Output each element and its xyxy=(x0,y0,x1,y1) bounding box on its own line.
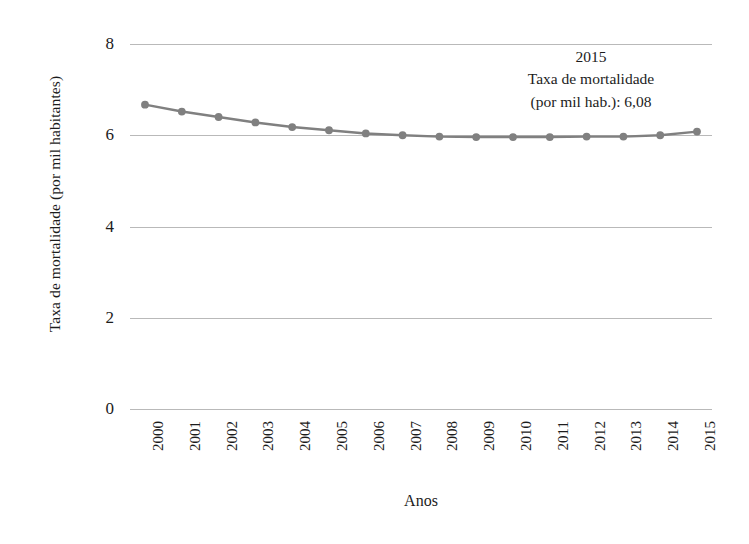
x-tick-label-2009: 2009 xyxy=(482,421,497,451)
x-tick-label-2002: 2002 xyxy=(225,421,240,451)
data-point-2004 xyxy=(288,123,296,131)
x-tick-label-2000: 2000 xyxy=(151,421,166,451)
mortality-rate-line-chart: Taxa de mortalidade (por mil habitantes)… xyxy=(0,0,749,544)
y-tick-label-8: 8 xyxy=(86,35,114,52)
data-point-2008 xyxy=(436,133,444,141)
data-point-2007 xyxy=(399,131,407,139)
data-point-2014 xyxy=(656,131,664,139)
x-tick-label-2006: 2006 xyxy=(372,421,387,451)
x-tick-label-2005: 2005 xyxy=(335,421,350,451)
x-tick-label-2008: 2008 xyxy=(445,421,460,451)
x-tick-label-2003: 2003 xyxy=(261,421,276,451)
x-tick-label-2013: 2013 xyxy=(629,421,644,451)
annotation-line-2: Taxa de mortalidade xyxy=(470,68,712,90)
data-point-2005 xyxy=(325,126,333,134)
last-point-annotation: 2015Taxa de mortalidade(por mil hab.): 6… xyxy=(470,46,712,113)
annotation-line-3: (por mil hab.): 6,08 xyxy=(470,91,712,113)
y-tick-label-0: 0 xyxy=(86,400,114,417)
x-tick-label-2010: 2010 xyxy=(519,421,534,451)
x-tick-label-2012: 2012 xyxy=(593,421,608,451)
y-axis-title: Taxa de mortalidade (por mil habitantes) xyxy=(46,0,64,414)
x-tick-label-2015: 2015 xyxy=(703,421,718,451)
data-point-2000 xyxy=(141,101,149,109)
data-point-2003 xyxy=(252,119,260,127)
data-point-2010 xyxy=(509,133,517,141)
y-axis-tick-labels: 02468 xyxy=(86,0,114,544)
data-point-2002 xyxy=(215,113,223,121)
data-point-2015 xyxy=(693,128,701,136)
x-tick-label-2007: 2007 xyxy=(409,421,424,451)
annotation-line-1: 2015 xyxy=(470,46,712,68)
data-point-2001 xyxy=(178,108,186,116)
y-tick-label-6: 6 xyxy=(86,126,114,143)
x-tick-label-2004: 2004 xyxy=(298,421,313,451)
x-axis-title: Anos xyxy=(130,492,712,510)
x-tick-label-2001: 2001 xyxy=(188,421,203,451)
data-point-2006 xyxy=(362,130,370,138)
y-tick-label-4: 4 xyxy=(86,218,114,235)
x-tick-label-2011: 2011 xyxy=(556,421,571,450)
data-point-2013 xyxy=(620,133,628,141)
data-point-2009 xyxy=(472,133,480,141)
x-tick-label-2014: 2014 xyxy=(666,421,681,451)
data-point-2011 xyxy=(546,133,554,141)
data-point-2012 xyxy=(583,133,591,141)
y-tick-label-2: 2 xyxy=(86,309,114,326)
x-axis-tick-labels: 2000200120022003200420052006200720082009… xyxy=(130,409,712,479)
